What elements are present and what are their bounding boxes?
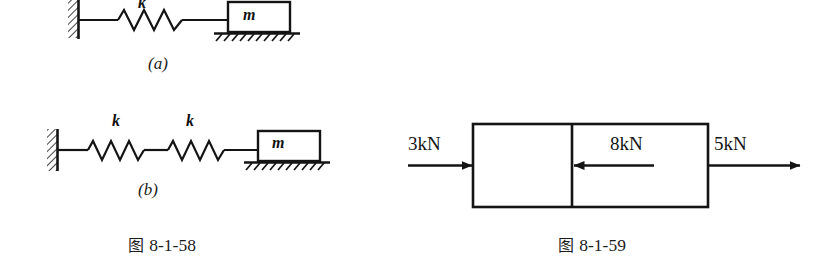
force-label-8kn: 8kN xyxy=(610,133,643,155)
mass-label-a: m xyxy=(243,6,255,24)
caption-left-cjk: 图 xyxy=(128,236,144,255)
spring-constant-label-b1: k xyxy=(112,112,120,130)
mass-label-b: m xyxy=(272,134,284,152)
subfigure-label-b: (b) xyxy=(138,180,158,200)
figure-caption-left: 图 8-1-58 xyxy=(128,232,196,256)
subfigure-label-a: (a) xyxy=(148,54,168,74)
mass-block-b xyxy=(258,131,320,161)
figure-page: k m (a) k k m (b) xyxy=(0,0,826,276)
wall-a xyxy=(68,0,79,39)
ground-b xyxy=(244,163,330,171)
spring-constant-label-a: k xyxy=(138,0,146,12)
ground-a xyxy=(214,34,300,42)
mass-block-a xyxy=(228,2,290,32)
caption-right-cjk: 图 xyxy=(558,236,574,255)
figure-caption-right: 图 8-1-59 xyxy=(558,232,626,256)
spring-constant-label-b2: k xyxy=(186,112,194,130)
spring-b-2 xyxy=(168,141,258,160)
force-label-5kn: 5kN xyxy=(714,133,747,155)
figure-8-1-58: k m (a) k k m (b) xyxy=(0,0,420,276)
force-label-3kn: 3kN xyxy=(408,133,441,155)
wall-b xyxy=(47,129,58,171)
diagram-a-and-b-graphics xyxy=(0,0,420,276)
caption-left-number: 8-1-58 xyxy=(149,235,196,255)
caption-right-number: 8-1-59 xyxy=(579,235,626,255)
spring-b-1 xyxy=(58,141,168,160)
spring-a xyxy=(79,10,228,30)
